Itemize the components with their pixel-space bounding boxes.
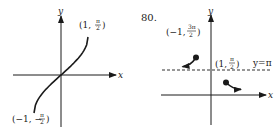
- right-branch-endpoint-dot: [223, 79, 229, 85]
- left-branch-endpoint-dot: [193, 55, 199, 61]
- svg-text:): ): [197, 27, 201, 37]
- left-label-bottom: (−1, − π 2 ): [12, 111, 50, 125]
- svg-text:3π: 3π: [188, 23, 196, 30]
- svg-text:2: 2: [40, 118, 44, 125]
- svg-text:): ): [102, 20, 106, 30]
- svg-text:(−1,: (−1,: [166, 27, 186, 37]
- svg-text:(−1, −: (−1, −: [12, 114, 42, 124]
- figure: y x (1, π 2 ) (−1, − π 2 ) 80. y x y=π: [0, 0, 280, 135]
- right-y-axis-label: y: [207, 6, 214, 16]
- svg-text:): ): [46, 114, 50, 124]
- svg-text:(1,: (1,: [215, 59, 227, 69]
- right-label-lower: (1, π 2 ): [215, 55, 240, 70]
- left-label-top: (1, π 2 ): [79, 17, 106, 31]
- problem-number: 80.: [141, 12, 157, 23]
- svg-text:2: 2: [230, 63, 234, 70]
- right-label-upper: (−1, 3π 2 ): [166, 23, 201, 38]
- svg-text:π: π: [40, 111, 44, 118]
- svg-text:2: 2: [189, 31, 193, 38]
- right-x-axis-label: x: [268, 90, 273, 100]
- svg-text:π: π: [230, 55, 234, 62]
- svg-text:): ): [236, 59, 240, 69]
- left-x-axis-label: x: [118, 70, 123, 80]
- svg-text:(1,: (1,: [79, 20, 91, 30]
- left-y-axis-label: y: [57, 6, 64, 16]
- right-graph: 80. y x y=π (−1, 3π 2 ) (1, π 2 ): [141, 6, 273, 125]
- left-graph: y x (1, π 2 ) (−1, − π 2 ): [12, 6, 123, 127]
- svg-text:2: 2: [96, 24, 100, 31]
- asymptote-label: y=π: [252, 58, 272, 68]
- svg-text:π: π: [96, 17, 100, 24]
